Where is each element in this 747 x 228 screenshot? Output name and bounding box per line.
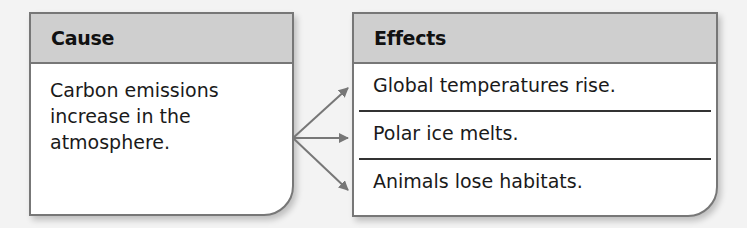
effect-text: Global temperatures rise. (373, 74, 616, 96)
effect-item: Animals lose habitats. (354, 160, 716, 208)
effect-item: Polar ice melts. (354, 112, 716, 160)
effect-item: Global temperatures rise. (354, 64, 716, 112)
effects-header: Effects (354, 14, 716, 64)
arrow-icon (293, 138, 348, 190)
effect-text: Animals lose habitats. (373, 170, 583, 192)
arrow-icon (293, 88, 348, 138)
effects-box: Effects Global temperatures rise. Polar … (352, 12, 718, 217)
effect-text: Polar ice melts. (373, 122, 519, 144)
